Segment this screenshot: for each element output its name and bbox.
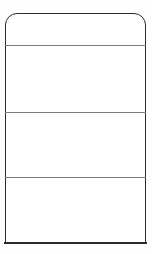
form-cell-band-2[interactable] <box>7 113 144 177</box>
form-cell-band-2-text <box>7 113 144 117</box>
document-canvas <box>0 0 152 254</box>
form-cell-band-3-text <box>7 178 144 182</box>
form-cell-header-band-text <box>7 15 144 19</box>
form-cell-band-1-text <box>7 46 144 50</box>
form-cell-header-band[interactable] <box>7 15 144 45</box>
form-cell-band-3[interactable] <box>7 178 144 242</box>
form-cell-band-1[interactable] <box>7 46 144 112</box>
